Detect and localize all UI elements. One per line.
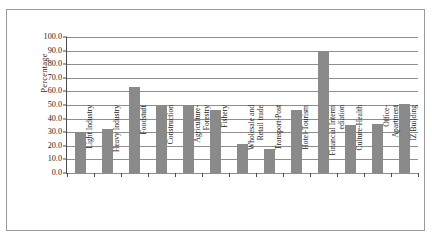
x-tick-mark (148, 173, 149, 177)
y-tick-mark (63, 50, 67, 51)
x-category-label: Foodstuff (139, 105, 148, 179)
y-tick-label: 70.0 (48, 74, 62, 82)
x-tick-mark (67, 173, 68, 177)
x-tick-mark (283, 173, 284, 177)
x-category-label: IZ Building (409, 105, 418, 179)
x-category-label: Light Industry (85, 105, 94, 179)
y-tick-mark (63, 91, 67, 92)
y-tick-mark (63, 37, 67, 38)
y-tick-label: 60.0 (48, 87, 62, 95)
x-tick-mark (121, 173, 122, 177)
y-tick-mark (63, 105, 67, 106)
y-tick-label: 40.0 (48, 114, 62, 122)
x-category-label: Agriculture-Forestry (193, 105, 211, 179)
y-tick-mark (63, 118, 67, 119)
x-category-label: Wholesale andRetail trade (247, 105, 265, 179)
x-tick-mark (418, 173, 419, 177)
x-tick-mark (310, 173, 311, 177)
x-category-label: Transport-Post (274, 105, 283, 179)
x-category-label: Office-Apartment (382, 105, 400, 179)
gridline (67, 64, 418, 65)
y-tick-mark (63, 145, 67, 146)
gridline (67, 51, 418, 52)
gridline (67, 91, 418, 92)
y-tick-label: 0.0 (52, 169, 62, 177)
y-tick-mark (63, 159, 67, 160)
gridline (67, 78, 418, 79)
y-tick-label: 80.0 (48, 60, 62, 68)
gridline (67, 37, 418, 38)
x-category-label: Fishery (220, 105, 229, 179)
x-category-label: Heavy Industry (112, 105, 121, 179)
y-tick-label: 30.0 (48, 128, 62, 136)
y-tick-label: 50.0 (48, 101, 62, 109)
x-category-label: Hotel-Tourism (301, 105, 310, 179)
y-tick-mark (63, 77, 67, 78)
y-tick-mark (63, 132, 67, 133)
plot-area: 100.090.080.070.060.050.040.030.020.010.… (67, 37, 418, 173)
x-category-label: Construction (166, 105, 175, 179)
y-tick-label: 10.0 (48, 155, 62, 163)
y-tick-label: 90.0 (48, 46, 62, 54)
chart-figure: Percentage 100.090.080.070.060.050.040.0… (0, 0, 432, 241)
x-tick-mark (364, 173, 365, 177)
x-category-label: Financial Intermediation (328, 105, 346, 179)
x-tick-mark (229, 173, 230, 177)
y-tick-label: 20.0 (48, 142, 62, 150)
y-tick-mark (63, 64, 67, 65)
chart-frame: Percentage 100.090.080.070.060.050.040.0… (6, 9, 425, 231)
x-category-label: Culture-Health (355, 105, 364, 179)
x-tick-mark (94, 173, 95, 177)
y-tick-label: 100.0 (44, 33, 62, 41)
x-tick-mark (175, 173, 176, 177)
